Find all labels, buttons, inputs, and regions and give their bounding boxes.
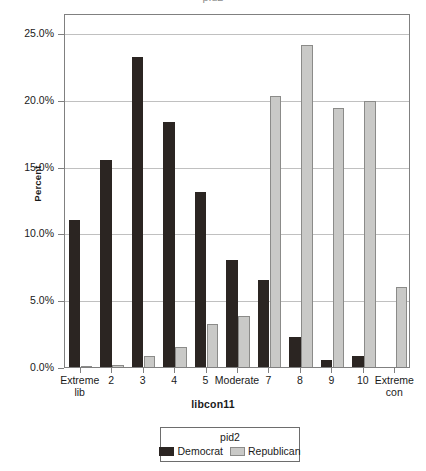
x-tick-mark: [363, 368, 364, 373]
bar-chart: Percent 0.0%5.0%10.0%15.0%20.0%25.0% Ext…: [0, 0, 426, 413]
x-tick-label: 8: [287, 374, 313, 386]
y-tick-mark: [58, 368, 64, 369]
y-tick-label: 5.0%: [2, 294, 54, 306]
bar-republican-4: [175, 347, 187, 368]
bar-democrat-10: [352, 356, 364, 368]
legend-item-republican[interactable]: Republican: [230, 445, 301, 457]
bar-republican-3: [144, 356, 156, 368]
x-tick-label: 9: [318, 374, 344, 386]
x-tick-mark: [111, 368, 112, 373]
bar-democrat-3: [132, 57, 144, 368]
x-tick-label: Extreme con: [366, 374, 422, 398]
bar-republican-6: [238, 316, 250, 368]
y-tick-label: 20.0%: [2, 94, 54, 106]
x-tick-mark: [331, 368, 332, 373]
bar-democrat-5: [195, 192, 207, 368]
legend-label-republican: Republican: [248, 445, 301, 457]
x-tick-mark: [268, 368, 269, 373]
gridline: [65, 234, 409, 235]
x-tick-label: 2: [98, 374, 124, 386]
x-tick-mark: [300, 368, 301, 373]
bar-republican-5: [207, 324, 219, 368]
x-tick-mark: [143, 368, 144, 373]
bar-republican-8: [301, 45, 313, 368]
bar-democrat-7: [258, 280, 270, 368]
x-tick-mark: [206, 368, 207, 373]
legend-swatch-republican: [230, 447, 245, 456]
gridline: [65, 101, 409, 102]
x-axis-title: libcon11: [0, 398, 426, 410]
bar-democrat-2: [100, 160, 112, 368]
bar-republican-9: [333, 108, 345, 368]
bar-democrat-4: [163, 122, 175, 368]
bar-democrat-6: [226, 260, 238, 368]
y-tick-label: 10.0%: [2, 227, 54, 239]
y-tick-label: 15.0%: [2, 161, 54, 173]
legend-items: DemocratRepublican: [167, 445, 293, 457]
bar-republican-11: [396, 287, 408, 368]
bar-republican-7: [270, 96, 282, 369]
y-tick-label: 0.0%: [2, 361, 54, 373]
x-tick-label: 4: [161, 374, 187, 386]
x-tick-label: 7: [255, 374, 281, 386]
bar-democrat-9: [321, 360, 333, 368]
y-tick-label: 25.0%: [2, 27, 54, 39]
y-axis-title: Percent: [32, 139, 43, 229]
legend-swatch-democrat: [159, 447, 174, 456]
x-tick-mark: [80, 368, 81, 373]
legend-item-democrat[interactable]: Democrat: [159, 445, 223, 457]
gridline: [65, 168, 409, 169]
bar-republican-2: [112, 365, 124, 368]
bar-democrat-1: [69, 220, 81, 368]
bar-republican-10: [364, 101, 376, 368]
x-tick-label: 3: [130, 374, 156, 386]
bar-democrat-8: [289, 337, 301, 368]
legend-title: pid2: [167, 431, 293, 443]
plot-area: [64, 14, 410, 368]
gridline: [65, 34, 409, 35]
x-tick-mark: [237, 368, 238, 373]
x-tick-mark: [174, 368, 175, 373]
legend: pid2 DemocratRepublican: [160, 427, 300, 462]
x-tick-mark: [394, 368, 395, 373]
bar-republican-1: [81, 366, 93, 368]
legend-label-democrat: Democrat: [177, 445, 223, 457]
